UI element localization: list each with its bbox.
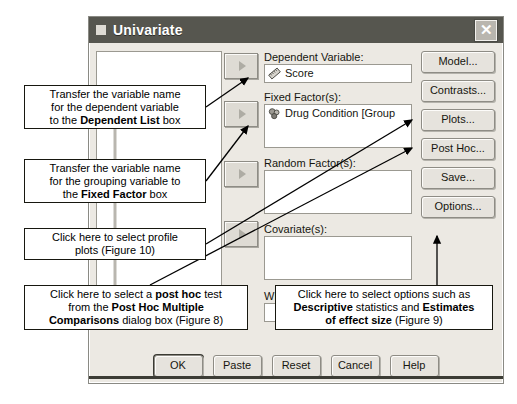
save-button[interactable]: Save... xyxy=(421,167,495,189)
dialog-button-row: OK Paste Reset Cancel Help xyxy=(89,355,503,377)
transfer-to-fixed-factors-button[interactable] xyxy=(224,101,258,127)
dialog-titlebar: Univariate ✕ xyxy=(89,17,503,43)
callout-emphasis: Estimates xyxy=(423,301,475,313)
options-button[interactable]: Options... xyxy=(421,196,495,218)
callout-line: for the grouping variable to xyxy=(50,175,181,187)
transfer-to-random-factors-button[interactable] xyxy=(224,161,258,187)
list-item[interactable]: Score xyxy=(265,65,411,81)
callout-plots-note: Click here to select profile plots (Figu… xyxy=(24,228,206,260)
random-factors-box[interactable] xyxy=(264,170,412,214)
dialog-bottom-rule xyxy=(89,376,503,379)
callout-emphasis: Comparisons xyxy=(49,314,119,326)
callout-line: Click here to select options such as xyxy=(298,288,470,300)
dependent-variable-box[interactable]: Score xyxy=(264,64,412,83)
cancel-button[interactable]: Cancel xyxy=(331,355,380,377)
callout-line: statistics and xyxy=(353,301,423,313)
callout-emphasis: of effect size xyxy=(325,314,392,326)
callout-line: test xyxy=(201,288,222,300)
callout-options-note: Click here to select options such as Des… xyxy=(275,285,493,330)
post-hoc-button[interactable]: Post Hoc... xyxy=(421,138,495,160)
covariates-box[interactable] xyxy=(264,236,412,280)
plots-button[interactable]: Plots... xyxy=(421,109,495,131)
callout-line: Transfer the variable name xyxy=(49,88,180,100)
callout-line: Click here to select profile xyxy=(52,231,178,243)
callout-line: box xyxy=(160,114,181,126)
callout-emphasis: Descriptive xyxy=(294,301,353,313)
callout-dependent-note: Transfer the variable name for the depen… xyxy=(24,85,206,129)
arrow-right-icon xyxy=(239,229,246,239)
callout-line: box xyxy=(146,188,167,200)
arrow-right-icon xyxy=(239,61,246,71)
callout-emphasis: post hoc xyxy=(155,288,201,300)
transfer-to-covariates-button[interactable] xyxy=(224,221,258,247)
screenshot-stage: Univariate ✕ Dependent Variable: xyxy=(0,0,517,404)
close-icon[interactable]: ✕ xyxy=(475,20,497,41)
callout-line: plots (Figure 10) xyxy=(75,244,155,256)
dialog-title: Univariate xyxy=(113,22,183,38)
scale-measure-icon xyxy=(268,67,281,80)
transfer-to-dependent-button[interactable] xyxy=(224,53,258,79)
callout-emphasis: Fixed Factor xyxy=(81,188,146,200)
callout-fixed-factor-note: Transfer the variable name for the group… xyxy=(24,159,206,203)
nominal-measure-icon xyxy=(268,107,281,120)
paste-button[interactable]: Paste xyxy=(213,355,262,377)
callout-line: for the dependent variable xyxy=(51,101,179,113)
help-button[interactable]: Help xyxy=(390,355,439,377)
covariates-label: Covariate(s): xyxy=(264,223,327,235)
arrow-right-icon xyxy=(239,109,246,119)
arrow-right-icon xyxy=(239,169,246,179)
callout-line: to the xyxy=(50,114,81,126)
window-menu-icon xyxy=(96,25,106,35)
model-button[interactable]: Model... xyxy=(421,51,495,73)
callout-line: (Figure 9) xyxy=(392,314,443,326)
contrasts-button[interactable]: Contrasts... xyxy=(421,80,495,102)
dependent-variable-label: Dependent Variable: xyxy=(264,51,363,63)
ok-button[interactable]: OK xyxy=(154,355,203,377)
callout-emphasis: Post Hoc Multiple xyxy=(112,301,204,313)
fixed-factors-label: Fixed Factor(s): xyxy=(264,91,341,103)
callout-line: the xyxy=(63,188,81,200)
callout-line: Click here to select a xyxy=(50,288,155,300)
callout-line: from the xyxy=(68,301,111,313)
random-factors-label: Random Factor(s): xyxy=(264,157,356,169)
fixed-factors-value: Drug Condition [Group xyxy=(285,107,395,119)
list-item[interactable]: Drug Condition [Group xyxy=(265,105,411,121)
callout-line: dialog box (Figure 8) xyxy=(119,314,223,326)
dependent-variable-value: Score xyxy=(285,67,314,79)
reset-button[interactable]: Reset xyxy=(272,355,321,377)
fixed-factors-box[interactable]: Drug Condition [Group xyxy=(264,104,412,148)
callout-emphasis: Dependent List xyxy=(80,114,159,126)
callout-post-hoc-note: Click here to select a post hoc test fro… xyxy=(24,285,248,330)
callout-line: Transfer the variable name xyxy=(49,162,180,174)
